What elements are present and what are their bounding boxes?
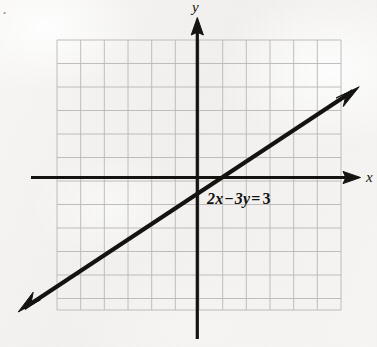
line-arrowhead-upper-right <box>336 87 359 107</box>
equation-rhs: 3 <box>262 190 272 207</box>
grid-lines <box>57 40 341 310</box>
coordinate-plane <box>0 0 377 347</box>
line-arrowhead-lower-left <box>18 292 40 312</box>
line-shaft <box>24 91 353 308</box>
x-axis-label: x <box>366 170 373 185</box>
equation-equals-sign: = <box>250 190 261 207</box>
equation-term-2x: 2x <box>207 190 223 207</box>
y-axis-arrowhead <box>191 18 203 36</box>
equation-minus-sign: − <box>223 190 234 207</box>
x-axis-arrowhead <box>343 171 361 183</box>
line-2x-3y-3 <box>18 87 359 312</box>
y-axis-label: y <box>192 0 199 15</box>
figure-canvas: . <box>0 0 377 347</box>
equation-term-3y: 3y <box>235 190 251 207</box>
equation-label: 2x−3y=3 <box>207 191 272 207</box>
